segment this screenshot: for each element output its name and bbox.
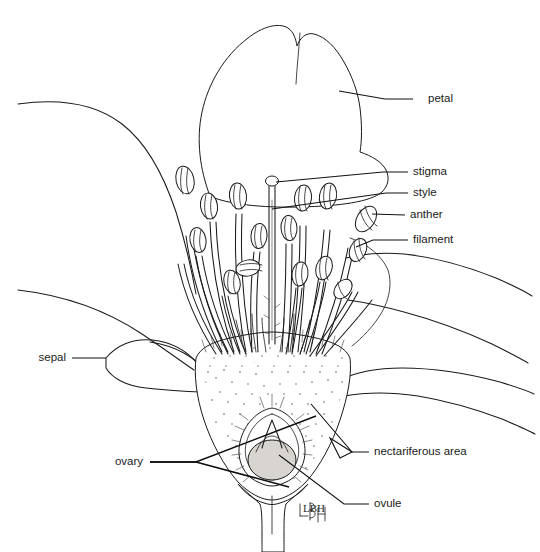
label-ovary: ovary	[115, 455, 143, 467]
ovule-body	[248, 440, 296, 480]
label-stigma: stigma	[413, 165, 447, 177]
label-nectariferous-area: nectariferous area	[374, 445, 467, 457]
label-style: style	[413, 186, 437, 198]
flower-diagram-canvas: petal stigma style anther filament sepal…	[0, 0, 540, 552]
label-anther: anther	[410, 208, 443, 220]
flower-anatomy-figure: petal stigma style anther filament sepal…	[0, 0, 540, 552]
label-petal: petal	[428, 92, 453, 104]
label-sepal: sepal	[39, 351, 67, 363]
label-ovule: ovule	[374, 497, 402, 509]
stigma-knob	[266, 176, 279, 186]
label-filament: filament	[413, 233, 454, 245]
